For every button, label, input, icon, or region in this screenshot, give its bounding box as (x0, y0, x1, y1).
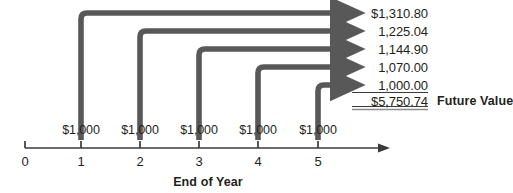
future-value-caption: Future Value (437, 95, 513, 108)
cashflow-amount-year-2: $1,000 (121, 124, 159, 137)
time-axis (25, 141, 390, 152)
axis-tick-label-5: 5 (314, 155, 321, 168)
axis-tick-label-3: 3 (195, 155, 202, 168)
compounding-arrows (81, 13, 332, 140)
future-value-total: $5,750.74 (352, 95, 428, 108)
axis-title: End of Year (173, 176, 243, 189)
axis-tick-label-2: 2 (136, 155, 143, 168)
future-value-year-1: $1,310.80 (352, 7, 428, 20)
cashflow-amount-year-1: $1,000 (62, 124, 100, 137)
cashflow-amount-year-5: $1,000 (299, 124, 337, 137)
future-value-year-3: 1,144.90 (352, 43, 428, 56)
future-value-year-2: 1,225.04 (352, 25, 428, 38)
cashflow-amount-year-3: $1,000 (180, 124, 218, 137)
future-value-year-4: 1,070.00 (352, 61, 428, 74)
cashflow-amount-year-4: $1,000 (239, 124, 277, 137)
axis-tick-label-4: 4 (254, 155, 261, 168)
axis-tick-label-0: 0 (21, 155, 28, 168)
axis-tick-marks (25, 141, 318, 148)
future-value-year-5: 1,000.00 (352, 79, 428, 92)
axis-arrowhead (378, 144, 390, 153)
axis-tick-label-1: 1 (77, 155, 84, 168)
